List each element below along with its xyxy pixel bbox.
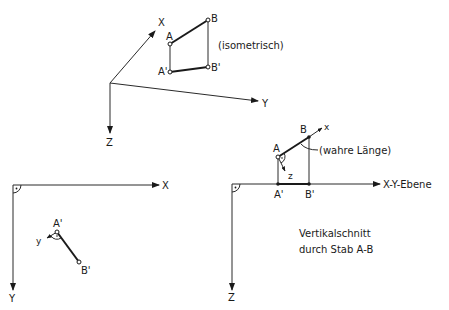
section-caption-line2: durch Stab A-B (299, 244, 373, 255)
iso-x-label: X (158, 17, 165, 28)
iso-point-b-prime (206, 65, 210, 69)
iso-a-label: A (166, 31, 173, 42)
section-point-b-prime (307, 182, 311, 186)
top-x-label: X (162, 180, 169, 191)
top-b-prime-label: B' (81, 265, 91, 276)
top-y-label: Y (8, 293, 16, 304)
section-local-z-label: z (288, 171, 293, 181)
iso-point-b (206, 18, 210, 22)
section-caption-line1: Vertikalschnitt (299, 228, 371, 239)
section-point-a (276, 155, 280, 159)
iso-bar-ab (170, 20, 208, 44)
true-length-label: (wahre Länge) (319, 145, 391, 156)
iso-bar-ab-projection (170, 67, 208, 72)
iso-b-label: B (211, 13, 218, 24)
section-angle-dot-icon (281, 157, 283, 159)
iso-point-a-prime (168, 70, 172, 74)
right-angle-dot-icon (235, 187, 237, 189)
iso-z-label: Z (106, 137, 113, 148)
diagram-canvas: X Y Z A B A' B' (isometrisch) X Y A' B' … (0, 0, 449, 310)
iso-a-prime-label: A' (158, 66, 168, 77)
iso-y-axis (110, 83, 258, 101)
section-point-a-prime (276, 182, 280, 186)
top-view: X Y A' B' y (8, 180, 169, 304)
section-local-x-label: x (324, 122, 330, 132)
section-b-label: B (300, 124, 307, 135)
isometric-view: X Y Z A B A' B' (isometrisch) (106, 13, 284, 148)
right-angle-dot-icon (16, 188, 18, 190)
top-angle-dot-icon (56, 235, 58, 237)
section-local-x-arrow (309, 128, 322, 137)
section-z-label: Z (228, 292, 235, 303)
top-local-y-label: y (36, 236, 42, 246)
top-bar-projection (57, 232, 79, 262)
section-a-prime-label: A' (274, 189, 284, 200)
iso-x-axis (110, 31, 155, 83)
section-a-label: A (273, 143, 280, 154)
section-point-b (307, 135, 311, 139)
xy-plane-label: X-Y-Ebene (383, 179, 432, 190)
iso-point-a (168, 42, 172, 46)
top-point-a-prime (55, 230, 59, 234)
iso-b-prime-label: B' (211, 62, 221, 73)
iso-y-label: Y (261, 98, 269, 109)
top-point-b-prime (77, 260, 81, 264)
iso-caption: (isometrisch) (218, 40, 284, 51)
vertical-section-view: X-Y-Ebene Z A B A' B' x z (wahre Länge) … (228, 122, 432, 303)
section-b-prime-label: B' (305, 189, 315, 200)
top-a-prime-label: A' (53, 218, 63, 229)
